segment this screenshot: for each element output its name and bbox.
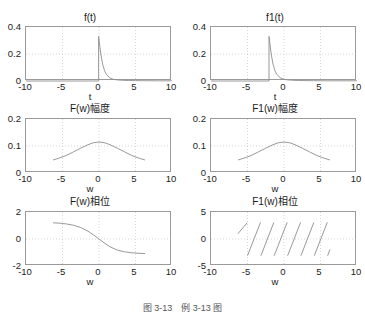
xlabel-fw-mag: w [0,184,180,194]
subplot-title-f1w-mag: F1(w)幅度 [185,103,365,114]
xtick-f1t-1: -5 [231,82,261,91]
xtick-f1w-phase-4: 10 [341,267,365,276]
subplot-title-ft: f(t) [0,12,180,23]
ytick-f1w-phase-1: 0 [185,234,206,243]
ytick-f1w-mag-1: 0.1 [185,141,206,150]
plot-area-fw-mag [25,118,171,172]
figure-panel: f(t) 0.4 0.2 0 -10 -5 0 5 10 t f1(t) [0,0,365,312]
curve-f1w-mag [238,142,330,160]
subplot-f1w-phase: F1(w)相位 5 0 -5 -10 -5 0 5 10 w [185,196,365,288]
plot-svg-fw-mag [26,119,172,173]
ytick-fw-mag-2: 0.2 [0,114,21,123]
xtick-f1w-mag-4: 10 [341,174,365,183]
plot-svg-ft [26,27,172,81]
xtick-f1w-phase-0: -10 [195,267,225,276]
xtick-f1w-phase-3: 5 [304,267,334,276]
xtick-f1w-phase-2: 0 [268,267,298,276]
xtick-fw-mag-1: -5 [46,174,76,183]
xtick-fw-phase-1: -5 [46,267,76,276]
ytick-f1t-1: 0.2 [185,49,206,58]
xtick-ft-0: -10 [10,82,40,91]
xlabel-f1w-phase: w [185,277,365,287]
plot-area-ft [25,26,171,80]
xtick-f1w-mag-3: 5 [304,174,334,183]
plot-svg-fw-phase [26,212,172,266]
xtick-fw-mag-0: -10 [10,174,40,183]
subplot-title-fw-phase: F(w)相位 [0,196,180,207]
subplot-fw-mag: F(w)幅度 0.2 0.1 0 -10 -5 0 5 10 w [0,103,180,193]
subplot-fw-phase: F(w)相位 2 0 -2 -10 -5 0 5 10 w [0,196,180,288]
xlabel-fw-phase: w [0,277,180,287]
xlabel-ft: t [0,92,180,102]
ytick-fw-phase-1: 0 [0,234,21,243]
xtick-ft-1: -5 [46,82,76,91]
xtick-fw-phase-0: -10 [10,267,40,276]
subplot-f1t: f1(t) 0.4 0.2 0 -10 -5 0 5 10 t [185,12,365,100]
xtick-fw-mag-3: 5 [119,174,149,183]
xtick-f1w-mag-1: -5 [231,174,261,183]
plot-area-fw-phase [25,211,171,265]
xtick-f1t-3: 5 [304,82,334,91]
subplot-ft: f(t) 0.4 0.2 0 -10 -5 0 5 10 t [0,12,180,100]
ytick-f1w-phase-2: 5 [185,207,206,216]
xtick-f1w-mag-2: 0 [268,174,298,183]
xlabel-f1t: t [185,92,365,102]
xtick-fw-mag-2: 0 [83,174,113,183]
plot-area-f1w-mag [210,118,356,172]
curve-f1w-phase-seg2 [248,222,261,255]
ytick-fw-mag-1: 0.1 [0,141,21,150]
curve-fw-mag [53,142,145,160]
xlabel-f1w-mag: w [185,184,365,194]
xtick-ft-4: 10 [156,82,186,91]
xtick-f1t-4: 10 [341,82,365,91]
subplot-f1w-mag: F1(w)幅度 0.2 0.1 0 -10 -5 0 5 10 w [185,103,365,193]
ytick-ft-1: 0.2 [0,49,21,58]
xtick-f1w-phase-1: -5 [231,267,261,276]
curve-f1w-phase-seg6 [301,222,314,255]
figure-caption: 图 3-13 例 3-13 图 [0,303,365,312]
ytick-f1t-2: 0.4 [185,22,206,31]
plot-svg-f1w-mag [211,119,357,173]
xtick-fw-phase-4: 10 [156,267,186,276]
xtick-fw-phase-2: 0 [83,267,113,276]
ytick-f1w-mag-2: 0.2 [185,114,206,123]
ytick-ft-2: 0.4 [0,22,21,31]
curve-f1w-phase-seg8 [328,250,330,256]
plot-area-f1t [210,26,356,80]
curve-f1w-phase-seg4 [274,222,287,255]
subplot-title-f1w-phase: F1(w)相位 [185,196,365,207]
curve-f1w-phase-seg1 [238,223,247,234]
xtick-f1t-2: 0 [268,82,298,91]
subplot-title-fw-mag: F(w)幅度 [0,103,180,114]
subplot-title-f1t: f1(t) [185,12,365,23]
xtick-f1t-0: -10 [195,82,225,91]
xtick-ft-2: 0 [83,82,113,91]
plot-area-f1w-phase [210,211,356,265]
xtick-ft-3: 5 [119,82,149,91]
xtick-fw-phase-3: 5 [119,267,149,276]
xtick-fw-mag-4: 10 [156,174,186,183]
plot-svg-f1w-phase [211,212,357,266]
curve-f1t [211,36,357,81]
curve-ft [26,36,172,81]
plot-svg-f1t [211,27,357,81]
xtick-f1w-mag-0: -10 [195,174,225,183]
ytick-fw-phase-2: 2 [0,207,21,216]
